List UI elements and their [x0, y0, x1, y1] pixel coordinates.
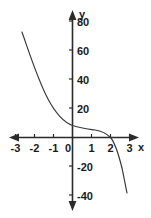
y-tick-label-neg40: -40 [77, 190, 93, 202]
y-tick-label-neg20: -20 [77, 161, 93, 173]
x-tick-label-1: 1 [88, 142, 94, 154]
y-tick-label-40: 40 [77, 74, 89, 86]
graph-figure: 80 60 40 20 -20 -40 -3 -2 -1 0 1 2 3 y x [0, 0, 151, 218]
x-axis-arrow-left-icon [9, 134, 19, 142]
y-axis-arrow-up-icon [69, 10, 77, 20]
x-tick-label-zero: 0 [65, 142, 71, 154]
y-tick-label-60: 60 [77, 45, 89, 57]
y-axis-label: y [79, 8, 86, 20]
y-axis-arrow-down-icon [69, 201, 77, 211]
function-curve [22, 32, 127, 193]
y-tick-label-20: 20 [77, 103, 89, 115]
x-tick-label-3: 3 [126, 142, 132, 154]
x-tick-label-2: 2 [107, 142, 113, 154]
x-tick-label-neg3: -3 [11, 142, 21, 154]
x-axis-label: x [138, 141, 145, 153]
graph-canvas: 80 60 40 20 -20 -40 -3 -2 -1 0 1 2 3 y x [0, 0, 151, 218]
x-tick-label-neg2: -2 [30, 142, 40, 154]
x-axis-group [9, 134, 139, 142]
x-tick-label-neg1: -1 [49, 142, 59, 154]
y-axis-group [69, 10, 77, 211]
